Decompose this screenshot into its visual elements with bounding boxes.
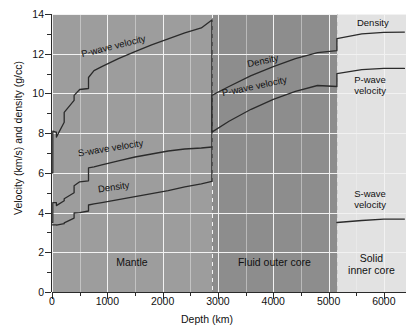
x-axis-line (52, 292, 406, 293)
y-tick-major (45, 133, 51, 134)
y-tick-minor (47, 153, 51, 154)
x-tick-minor (246, 293, 247, 296)
x-tick-minor (190, 293, 191, 296)
y-tick-label: 10 (0, 87, 44, 99)
y-tick-major (45, 213, 51, 214)
y-tick-label: 6 (0, 167, 44, 179)
x-tick-minor (135, 293, 136, 296)
x-tick-label: 4000 (262, 295, 285, 307)
y-tick-major (45, 14, 51, 15)
y-tick-minor (47, 113, 51, 114)
curve-s-wave-velocity (52, 147, 212, 223)
x-tick-label: 3000 (206, 295, 229, 307)
x-tick-label: 2000 (151, 295, 174, 307)
y-tick-minor (47, 193, 51, 194)
y-tick-label: 8 (0, 127, 44, 139)
plot-area: P-wave velocityS-wave velocityDensityDen… (52, 14, 406, 292)
y-axis-line (51, 14, 52, 292)
y-tick-label: 2 (0, 246, 44, 258)
y-tick-minor (47, 34, 51, 35)
curve-s-wave-velocity (337, 219, 405, 222)
y-tick-minor (47, 232, 51, 233)
curve-density (52, 32, 404, 225)
annotation-inner-core-p-wave-velocity: P-wave velocity (354, 74, 386, 96)
x-tick-label: 1000 (96, 295, 119, 307)
zone-label-solid-inner-core: Solid inner core (348, 252, 395, 276)
annotation-inner-core-density: Density (357, 16, 389, 27)
y-tick-major (45, 292, 51, 293)
seismic-velocity-density-chart: Velocity (km/s) and density (g/cc) P-wav… (0, 0, 414, 334)
x-axis-title: Depth (km) (0, 313, 414, 325)
y-tick-major (45, 173, 51, 174)
x-tick-label: 5000 (317, 295, 340, 307)
x-tick-minor (80, 293, 81, 296)
x-tick-label: 0 (49, 295, 55, 307)
zone-label-mantle: Mantle (116, 256, 148, 268)
zone-label-fluid-outer-core: Fluid outer core (238, 256, 311, 268)
x-tick-label: 6000 (372, 295, 395, 307)
y-tick-major (45, 252, 51, 253)
y-tick-label: 4 (0, 207, 44, 219)
y-tick-label: 0 (0, 286, 44, 298)
y-tick-minor (47, 74, 51, 75)
x-tick-minor (301, 293, 302, 296)
y-tick-label: 14 (0, 8, 44, 20)
y-tick-major (45, 93, 51, 94)
x-tick-minor (356, 293, 357, 296)
y-tick-label: 12 (0, 48, 44, 60)
annotation-inner-core-s-wave-velocity: S-wave velocity (354, 188, 386, 210)
y-tick-major (45, 54, 51, 55)
y-tick-minor (47, 272, 51, 273)
